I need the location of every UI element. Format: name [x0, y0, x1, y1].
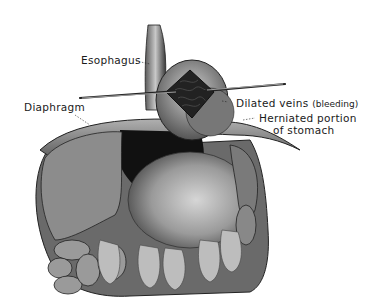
bleeding-note-text: (bleeding) — [312, 99, 358, 109]
herniated-line1-text: Herniated portion — [259, 112, 357, 124]
herniated-line2-text: of stomach — [259, 124, 357, 136]
esophagus-label: Esophagus — [81, 54, 141, 66]
herniated-portion-label: Herniated portion of stomach — [259, 112, 357, 136]
anatomy-illustration — [0, 0, 372, 305]
dilated-veins-label: Dilated veins (bleeding) — [236, 97, 358, 110]
esophagus-text: Esophagus — [81, 54, 141, 66]
figure-canvas: Esophagus Diaphragm Dilated veins (bleed… — [0, 0, 372, 305]
diaphragm-label: Diaphragm — [24, 101, 85, 113]
diaphragm-text: Diaphragm — [24, 101, 85, 113]
dilated-veins-text: Dilated veins — [236, 97, 309, 109]
